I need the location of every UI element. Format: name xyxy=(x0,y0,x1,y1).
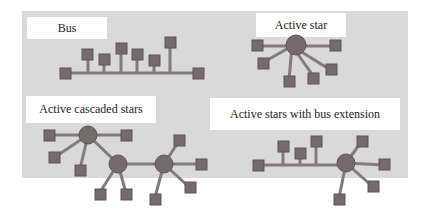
topology-diagrams xyxy=(0,0,427,219)
hub xyxy=(109,155,127,173)
hub xyxy=(79,126,97,144)
hub xyxy=(155,155,173,173)
hub xyxy=(337,154,355,172)
hub xyxy=(286,35,306,55)
